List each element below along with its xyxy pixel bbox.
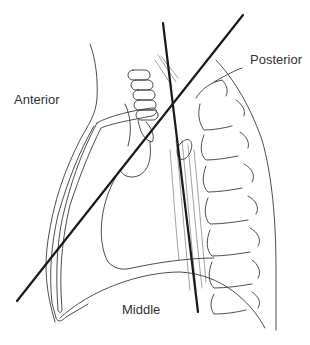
sternum [57,108,157,312]
heart-upper [120,142,151,177]
diaphragm [60,272,265,328]
label-posterior: Posterior [250,52,302,67]
posterior-back-outline [216,60,276,330]
label-anterior: Anterior [14,92,60,107]
vertical-dividing-line [163,23,198,312]
label-middle: Middle [122,302,160,317]
trachea [128,70,158,120]
